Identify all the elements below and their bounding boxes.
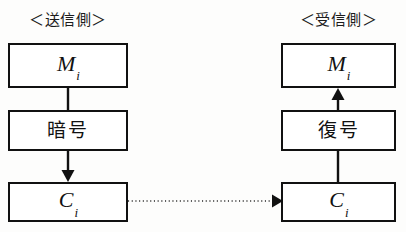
node-sender-encrypt: 暗号 <box>8 110 128 151</box>
node-sender-message-symbol: M <box>57 51 75 76</box>
cipher-flow-diagram: ＜送信側＞ ＜受信側＞ Mi 暗号 Ci Mi 復号 Ci <box>0 0 406 232</box>
node-receiver-decrypt: 復号 <box>281 110 396 151</box>
node-receiver-message: Mi <box>281 43 396 88</box>
sender-column-header: ＜送信側＞ <box>8 8 128 29</box>
node-receiver-message-subscript: i <box>347 68 351 83</box>
node-receiver-cipher-subscript: i <box>345 205 349 220</box>
node-receiver-decrypt-label: 復号 <box>318 121 360 140</box>
node-sender-message: Mi <box>8 43 128 88</box>
arrowhead-down-sender-cipher <box>62 170 75 182</box>
receiver-column-header: ＜受信側＞ <box>281 8 396 29</box>
arrowhead-up-receiver-message <box>332 88 345 100</box>
node-receiver-cipher-symbol: C <box>329 187 344 212</box>
node-sender-message-subscript: i <box>76 68 80 83</box>
node-receiver-cipher-label: Ci <box>329 189 347 214</box>
node-sender-cipher-subscript: i <box>75 205 79 220</box>
node-sender-cipher: Ci <box>8 182 128 222</box>
node-sender-cipher-symbol: C <box>59 187 74 212</box>
node-sender-cipher-label: Ci <box>59 189 77 214</box>
node-receiver-message-label: Mi <box>328 53 350 78</box>
node-receiver-message-symbol: M <box>328 51 346 76</box>
node-receiver-cipher: Ci <box>281 182 396 222</box>
node-sender-encrypt-label: 暗号 <box>47 121 89 140</box>
node-sender-message-label: Mi <box>57 53 79 78</box>
